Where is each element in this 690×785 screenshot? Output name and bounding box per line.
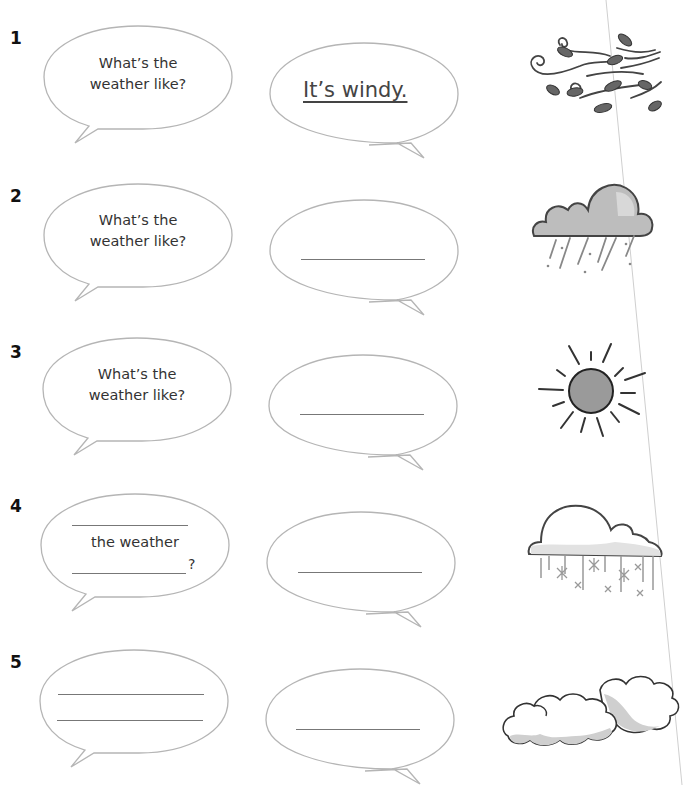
answer-blank[interactable] [300,414,424,415]
answer-bubble: It’s windy. [269,42,459,160]
sun-icon [535,340,655,445]
question-bubble: What’s the weather like? [43,25,233,145]
question-blank-1[interactable] [58,694,204,695]
question-blank-2[interactable] [72,573,186,574]
answer-bubble [265,668,455,785]
question-blank-1[interactable] [72,525,188,526]
question-blank-2[interactable] [57,720,203,721]
answer-blank[interactable] [296,729,420,730]
question-bubble: the weather ? [40,493,230,613]
question-bubble: What’s the weather like? [43,183,233,303]
question-bubble: What’s the weather like? [42,337,232,457]
item-number: 1 [10,28,22,48]
item-number: 3 [10,342,22,362]
answer-blank[interactable] [301,259,425,260]
item-number: 2 [10,186,22,206]
question-line-1: What’s the [42,364,232,384]
question-bubble [39,649,229,769]
answer-bubble [266,511,456,629]
question-line-1: What’s the [43,210,233,230]
question-line-1: What’s the [43,53,233,73]
snowy-cloud-icon [525,490,670,600]
question-line-2: weather like? [43,231,233,251]
item-number: 4 [10,496,22,516]
answer-bubble [268,354,458,472]
windy-icon [525,30,670,115]
question-line-2: weather like? [42,385,232,405]
answer-text: It’s windy. [303,78,407,102]
cloudy-icon [500,670,685,750]
question-middle-text: the weather [40,532,230,552]
question-mark: ? [188,556,195,572]
answer-bubble [269,199,459,317]
rainy-cloud-icon [530,180,665,275]
answer-blank[interactable] [298,572,422,573]
item-number: 5 [10,652,22,672]
question-line-2: weather like? [43,74,233,94]
